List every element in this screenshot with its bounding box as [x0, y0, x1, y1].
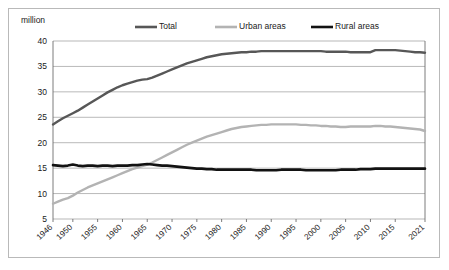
- x-tick-label: 1955: [79, 223, 99, 242]
- chart-gridlines: [53, 41, 425, 219]
- chart-figure: TotalUrban areasRural areas 510152025303…: [8, 8, 440, 258]
- x-tick-label: 2021: [407, 223, 427, 242]
- line-chart: TotalUrban areasRural areas 510152025303…: [9, 9, 439, 257]
- y-axis: 510152025303540: [38, 36, 48, 224]
- x-tick-label: 2010: [352, 223, 372, 242]
- x-tick-label: 1985: [228, 223, 248, 242]
- x-tick-label: 1960: [104, 223, 124, 242]
- y-tick-label: 25: [38, 112, 48, 122]
- legend-label-urban-areas: Urban areas: [239, 21, 286, 31]
- legend-label-total: Total: [159, 21, 177, 31]
- y-tick-label: 15: [38, 163, 48, 173]
- series-line-urban-areas: [53, 124, 425, 203]
- y-tick-label: 40: [38, 36, 48, 46]
- series-line-rural-areas: [53, 164, 425, 170]
- y-tick-label: 20: [38, 138, 48, 148]
- x-tick-label: 1970: [154, 223, 174, 242]
- x-tick-label: 1946: [35, 223, 55, 242]
- x-tick-label: 1990: [253, 223, 273, 242]
- y-axis-unit-label: million: [21, 15, 45, 25]
- y-tick-label: 10: [38, 189, 48, 199]
- series-line-total: [53, 50, 425, 124]
- chart-series-group: [53, 50, 425, 204]
- y-tick-label: 35: [38, 61, 48, 71]
- y-tick-label: 30: [38, 87, 48, 97]
- legend-label-rural-areas: Rural areas: [335, 21, 379, 31]
- x-tick-label: 1965: [129, 223, 149, 242]
- x-tick-label: 1950: [55, 223, 75, 242]
- x-tick-label: 1980: [203, 223, 223, 242]
- x-tick-label: 1975: [179, 223, 199, 242]
- x-tick-label: 2015: [377, 223, 397, 242]
- x-tick-label: 2000: [303, 223, 323, 242]
- chart-legend: TotalUrban areasRural areas: [135, 21, 379, 31]
- x-tick-label: 2005: [327, 223, 347, 242]
- x-axis: 1946195019551960196519701975198019851990…: [35, 219, 427, 242]
- x-tick-label: 1995: [278, 223, 298, 242]
- y-tick-label: 5: [42, 214, 47, 224]
